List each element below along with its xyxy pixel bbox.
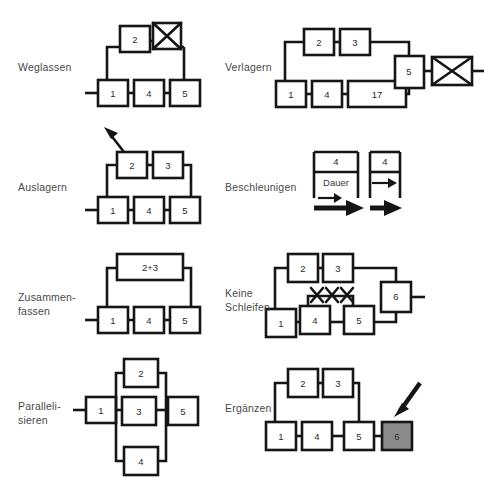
node-1-label: 1	[110, 88, 115, 99]
panel-label-verlagern: Verlagern	[225, 60, 272, 74]
panel-verlagern: Verlagern 1 4 17 2 3 5	[222, 0, 489, 120]
panel-parallelisieren: Paralleli- sieren 1 5 3 2 4	[0, 355, 245, 483]
node-2-label: 2	[129, 160, 134, 171]
edge-1-up-to-2	[107, 165, 117, 197]
node-4-label: 4	[146, 88, 151, 99]
node-5-label: 5	[182, 205, 187, 216]
panel-keine-schleifen: Keine Schleifen 1 4 5 2 3 6	[222, 240, 489, 360]
panel-label-zusammenfassen: Zusammen- fassen	[18, 290, 76, 318]
node-5-label: 5	[182, 88, 187, 99]
panel-label-erganzen: Ergänzen	[225, 401, 272, 415]
panel-label-weglassen: Weglassen	[18, 60, 72, 74]
node-3-label: 3	[335, 263, 340, 274]
left-inner-arrow-head-icon	[334, 193, 342, 203]
node-merged-label: 2+3	[142, 262, 158, 273]
node-3-label: 3	[335, 378, 340, 389]
outgoing-arrow-head-icon	[104, 127, 118, 139]
node-1-label: 1	[288, 89, 293, 100]
node-3-label: 3	[136, 406, 141, 417]
node-2-label: 2	[138, 368, 143, 379]
node-4-label: 4	[324, 89, 329, 100]
node-3-label: 3	[352, 37, 357, 48]
left-bold-arrow-head-icon	[346, 200, 364, 216]
node-6-added-label: 6	[394, 431, 399, 442]
node-1-label: 1	[110, 205, 115, 216]
edge-1-up-to-2	[275, 268, 288, 309]
node-5-label: 5	[406, 66, 411, 77]
edge-1-up-to-2	[285, 42, 304, 81]
node-1-label: 1	[110, 315, 115, 326]
diagram-sheet: Weglassen 1 4 5 2	[0, 0, 489, 483]
right-inner-arrow-head-icon	[388, 178, 397, 188]
node-3-label: 3	[165, 160, 170, 171]
panel-weglassen: Weglassen 1 4 5 2	[0, 0, 245, 120]
duration-label: Dauer	[323, 177, 349, 188]
node-2-label: 2	[300, 263, 305, 274]
node-1-label: 1	[278, 431, 283, 442]
right-bold-arrow-head-icon	[384, 200, 402, 216]
node-4-label: 4	[312, 315, 317, 326]
node-5-label: 5	[356, 431, 361, 442]
panel-label-auslagern: Auslagern	[18, 180, 67, 194]
node-5-label: 5	[180, 406, 185, 417]
node-2-label: 2	[300, 378, 305, 389]
node-6-label: 6	[393, 291, 398, 302]
panel-label-beschleunigen: Beschleunigen	[225, 180, 297, 194]
panel-zusammenfassen: Zusammen- fassen 1 4 5 2+3	[0, 240, 245, 360]
node-1-label: 1	[278, 318, 283, 329]
node-17-label: 17	[372, 89, 383, 100]
node-4-label: 4	[146, 315, 151, 326]
edge-5-to-6	[374, 312, 396, 322]
node-2-label: 2	[132, 34, 137, 45]
node-1-label: 1	[98, 405, 103, 416]
edge-1-up-to-2	[275, 383, 288, 422]
panel-beschleunigen: Beschleunigen 4 Dauer 4	[222, 120, 489, 240]
panel-label-parallelisieren: Paralleli- sieren	[18, 399, 61, 427]
diagram-erganzen: 1 4 5 2 3 6	[222, 355, 489, 483]
node-5-label: 5	[182, 315, 187, 326]
loop-crossed-out-icon	[311, 288, 353, 302]
edge-1-up-to-merged	[107, 268, 117, 307]
node-4-label: 4	[146, 205, 151, 216]
node-4-label: 4	[314, 431, 319, 442]
node-2-label: 2	[316, 37, 321, 48]
right-node-4-label: 4	[382, 156, 387, 167]
panel-auslagern: Auslagern 1 4 5 2 3	[0, 120, 245, 240]
node-4-label: 4	[138, 456, 143, 467]
node-5-label: 5	[356, 315, 361, 326]
panel-label-keine-schleifen: Keine Schleifen	[225, 286, 270, 314]
panel-erganzen: Ergänzen 1 4 5 2 3 6	[222, 355, 489, 483]
left-node-4-label: 4	[333, 156, 338, 167]
